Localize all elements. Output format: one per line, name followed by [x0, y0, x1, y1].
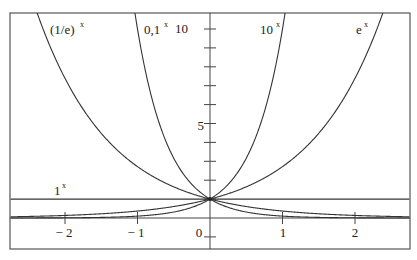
x-tick-label-minus-1: − 1 — [127, 225, 144, 240]
label-exponent: x — [164, 20, 168, 29]
label-base: 10 — [260, 22, 273, 37]
label-0-1-pow-x: 0,1 x — [144, 20, 168, 37]
label-exponent: x — [276, 20, 280, 29]
label-exponent: x — [62, 181, 66, 190]
label-1-pow-x: 1 x — [54, 181, 66, 198]
label-exponent: x — [364, 20, 368, 29]
label-exponent: x — [80, 20, 84, 29]
intersection-point — [208, 197, 212, 201]
label-base: e — [356, 22, 362, 37]
x-tick-label-1: 1 — [280, 225, 287, 240]
label-e-pow-x: e x — [356, 20, 368, 37]
y-tick-label-5: 5 — [198, 118, 205, 133]
label-base: 1 — [54, 183, 61, 198]
label-base: (1/e) — [50, 22, 75, 37]
y-tick-label-10: 10 — [175, 21, 188, 36]
x-tick-label-2: 2 — [352, 225, 359, 240]
label-one-over-e-pow-x: (1/e) x — [50, 20, 84, 37]
x-tick-label-0: 0 — [196, 225, 203, 240]
x-tick-label-minus-2: − 2 — [55, 225, 72, 240]
label-10-pow-x: 10 x — [260, 20, 280, 37]
label-base: 0,1 — [144, 22, 160, 37]
exponential-functions-chart: 10 5 − 2 − 1 0 1 2 (1/e) x 0,1 x 10 x e … — [0, 0, 417, 260]
